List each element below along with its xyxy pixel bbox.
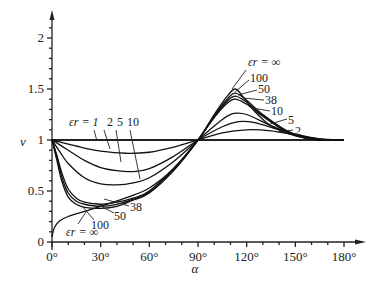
y-tick-label: 0 bbox=[38, 234, 45, 249]
label-er1: εr = 1 bbox=[69, 115, 99, 129]
x-tick-label: 120° bbox=[234, 249, 259, 264]
curve-er-inf bbox=[52, 89, 344, 237]
curves bbox=[52, 89, 344, 237]
leader-er-inf-top bbox=[232, 70, 246, 89]
leader-er5 bbox=[116, 130, 121, 162]
curve-er-50 bbox=[52, 96, 344, 206]
label-t5: 5 bbox=[288, 113, 294, 127]
label-t2: 2 bbox=[295, 124, 301, 138]
label-b38: 38 bbox=[130, 200, 142, 214]
y-tick-label: 1 bbox=[38, 132, 45, 147]
x-tick-label: 180° bbox=[332, 249, 357, 264]
label-t10: 10 bbox=[271, 104, 283, 118]
x-tick-label: 30° bbox=[92, 249, 110, 264]
x-tick-label: 150° bbox=[283, 249, 308, 264]
label-er-inf-top: εr = ∞ bbox=[248, 55, 280, 69]
axes bbox=[50, 10, 367, 250]
y-axis-arrow-icon bbox=[50, 10, 55, 20]
x-tick-label: 60° bbox=[140, 249, 158, 264]
x-axis-arrow-icon bbox=[355, 240, 366, 245]
chart: 0°30°60°90°120°150°180°00.511.52 v α εr … bbox=[0, 0, 375, 295]
y-axis-label: v bbox=[20, 134, 26, 149]
x-tick-label: 0° bbox=[46, 249, 58, 264]
label-er2: 2 bbox=[107, 115, 113, 129]
leader-er-inf-bottom bbox=[78, 212, 86, 224]
label-er10: 10 bbox=[127, 115, 139, 129]
x-axis-label: α bbox=[192, 261, 200, 276]
label-b50: 50 bbox=[114, 209, 126, 223]
leader-t50 bbox=[238, 90, 257, 95]
y-tick-label: 2 bbox=[38, 30, 45, 45]
label-er5: 5 bbox=[117, 115, 123, 129]
y-tick-label: 0.5 bbox=[28, 183, 44, 198]
y-tick-label: 1.5 bbox=[28, 81, 44, 96]
